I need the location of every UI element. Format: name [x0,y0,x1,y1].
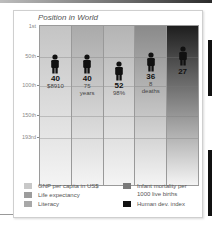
rank-value: 27 [167,67,198,76]
gridline [135,138,166,139]
person-icon [50,54,60,74]
gridline [104,138,135,139]
person-icon [146,52,156,72]
gridline [40,138,71,139]
rank-value: 40 [40,74,71,83]
legend-swatch [24,183,32,189]
rank-value: 40 [72,74,103,83]
legend-swatch [123,201,131,207]
gridline [167,86,198,87]
gridline [135,116,166,117]
y-tick-label: 1st [14,23,36,29]
chart-column: 368deaths [135,26,167,185]
gridline [72,116,103,117]
legend: GNP per capita in US$ Life expectancy Li… [14,179,202,209]
sub-value: 75 [72,83,103,90]
chart-column: 27 [167,26,198,185]
chart-title: Position in World [38,13,98,22]
sub-value: 8 [135,81,166,88]
person-icon [82,54,92,74]
right-edge-bar [208,150,212,216]
chart-card: Position in World 1st50th100th150th193rd… [13,10,203,218]
legend-swatch [24,192,32,198]
sub-value: $8910 [40,83,71,90]
gridline [167,138,198,139]
rank-value: 52 [104,81,135,90]
y-tick-label: 50th [14,53,36,59]
chart-column: 40$8910 [40,26,72,185]
chart-column: 4075years [72,26,104,185]
legend-swatch [24,201,32,207]
y-tick-label: 193rd [14,134,36,140]
sub-unit: deaths [135,88,166,95]
sub-unit: years [72,90,103,97]
chart-column: 5298% [104,26,136,185]
sub-value: 98% [104,90,135,97]
person-icon [178,46,188,66]
gridline [104,57,135,58]
right-edge-bar [208,40,212,96]
gridline [40,116,71,117]
y-tick-label: 150th [14,112,36,118]
top-strip [0,0,212,3]
legend-swatch [123,183,131,189]
gridline [104,116,135,117]
y-tick-label: 100th [14,82,36,88]
plot-area: 40$89104075years5298%368deaths27 [39,25,199,186]
rank-value: 36 [135,72,166,81]
person-icon [114,61,124,81]
gridline [167,116,198,117]
gridline [72,138,103,139]
